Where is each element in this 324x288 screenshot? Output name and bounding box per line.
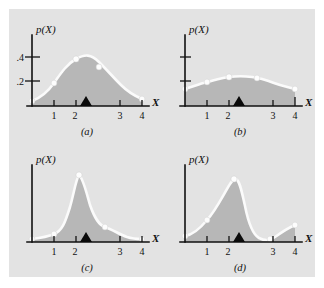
panel-a-ytick-high: .4 xyxy=(17,52,25,63)
panel-b: p(X) X 1 2 3 4 (b) xyxy=(162,9,315,143)
panel-a-ytick-low: .2 xyxy=(17,76,25,87)
panel-c-xtick-2: 2 xyxy=(73,246,78,257)
panel-d-ylabel: p(X) xyxy=(188,153,209,166)
panel-b-xlabel: X xyxy=(304,96,313,108)
panel-a-xtick-3: 3 xyxy=(118,110,123,121)
panel-a-xtick-4: 4 xyxy=(140,110,145,121)
panel-b-xtick-1: 1 xyxy=(205,110,210,121)
panel-b-xtick-3: 3 xyxy=(271,110,276,121)
figure-plate: p(X) X .4 .2 1 2 3 4 (a) xyxy=(9,9,315,277)
panel-c: p(X) X 1 2 3 4 (c) xyxy=(9,143,162,277)
panel-d: p(X) X 1 2 3 4 (d) xyxy=(162,143,315,277)
panel-c-area xyxy=(32,175,142,242)
panel-c-caption: (c) xyxy=(81,262,93,274)
panel-a: p(X) X .4 .2 1 2 3 4 (a) xyxy=(9,9,162,143)
panel-c-xtick-1: 1 xyxy=(52,246,57,257)
panel-d-xlabel: X xyxy=(304,232,313,244)
panel-d-xtick-1: 1 xyxy=(205,246,210,257)
panel-d-plot: p(X) X 1 2 3 4 (d) xyxy=(162,143,315,277)
panel-a-xlabel: X xyxy=(151,96,160,108)
panel-a-xtick-1: 1 xyxy=(52,110,57,121)
panel-d-xtick-3: 3 xyxy=(271,246,276,257)
panel-b-caption: (b) xyxy=(234,126,247,138)
figure-root: p(X) X .4 .2 1 2 3 4 (a) xyxy=(0,0,324,288)
panel-d-caption: (d) xyxy=(234,262,247,274)
panel-c-plot: p(X) X 1 2 3 4 (c) xyxy=(9,143,162,277)
panel-b-xtick-4: 4 xyxy=(293,110,298,121)
panel-b-plot: p(X) X 1 2 3 4 (b) xyxy=(162,9,315,143)
panel-c-ylabel: p(X) xyxy=(35,153,56,166)
panel-c-fill xyxy=(32,175,142,242)
panel-d-area xyxy=(185,179,295,242)
panel-c-xtick-3: 3 xyxy=(118,246,123,257)
panel-a-plot: p(X) X .4 .2 1 2 3 4 (a) xyxy=(9,9,162,143)
panel-d-xtick-2: 2 xyxy=(226,246,231,257)
panel-a-ylabel: p(X) xyxy=(35,23,56,36)
panel-c-xlabel: X xyxy=(151,232,160,244)
panel-b-ylabel: p(X) xyxy=(188,23,209,36)
panel-d-xtick-4: 4 xyxy=(293,246,298,257)
panel-a-caption: (a) xyxy=(81,126,94,138)
panel-a-xtick-2: 2 xyxy=(73,110,78,121)
panel-b-xtick-2: 2 xyxy=(226,110,231,121)
panel-c-xtick-4: 4 xyxy=(140,246,145,257)
